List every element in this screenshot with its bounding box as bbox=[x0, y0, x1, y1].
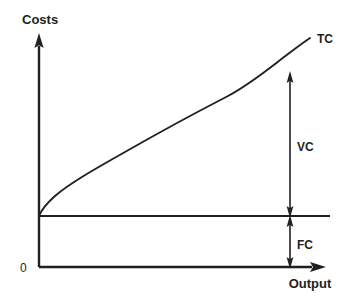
y-axis-arrow-icon bbox=[34, 33, 43, 48]
y-axis-title: Costs bbox=[22, 12, 58, 27]
x-axis-title: Output bbox=[289, 276, 332, 291]
fc-label: FC bbox=[297, 238, 313, 252]
x-axis bbox=[39, 262, 326, 272]
cost-curve-svg: Costs Output 0 TC VC FC bbox=[0, 0, 362, 300]
cost-curve-figure: Costs Output 0 TC VC FC bbox=[0, 0, 362, 300]
total-cost-curve bbox=[39, 38, 310, 216]
vc-label: VC bbox=[297, 140, 314, 154]
tc-label: TC bbox=[317, 32, 333, 46]
y-axis bbox=[34, 33, 43, 267]
fc-measure-arrow bbox=[287, 215, 294, 269]
origin-label: 0 bbox=[20, 261, 27, 275]
vc-measure-arrow bbox=[287, 71, 294, 218]
x-axis-arrow-icon bbox=[310, 262, 326, 272]
